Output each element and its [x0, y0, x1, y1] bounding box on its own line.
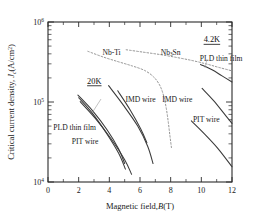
x-axis-title: Magnetic field,B(T) [106, 201, 174, 211]
chart-annotations: 4.2K20KNb-TiNb3SnPLD thin filmIMD wireIM… [53, 35, 242, 146]
x-tick-label: 12 [228, 186, 236, 195]
y-axis-title: Critical current density, Jc(A/cm2) [6, 44, 17, 160]
x-tick-label: 8 [169, 186, 173, 195]
label-pit-wire-4p2k: PIT wire [193, 115, 220, 124]
chart-svg: 024681012 104105106 4.2K20KNb-TiNb3SnPLD… [0, 0, 257, 223]
series-curve [191, 121, 232, 167]
y-tick-label: 104 [33, 177, 44, 187]
y-tick-label: 106 [33, 17, 44, 27]
temp-20k: 20K [87, 77, 101, 86]
temp-4p2k: 4.2K [204, 35, 221, 44]
x-tick-label: 10 [197, 186, 205, 195]
x-axis-tick-labels: 024681012 [46, 186, 236, 195]
figure-container: 024681012 104105106 4.2K20KNb-TiNb3SnPLD… [0, 0, 257, 223]
series-curve [79, 98, 126, 169]
label-nb3sn: Nb3Sn [161, 48, 181, 58]
y-tick-label: 105 [33, 97, 44, 107]
label-pld-thin-film-20k: PLD thin film [53, 123, 96, 132]
data-curves [78, 50, 232, 175]
svg-text:Magnetic field,B(T): Magnetic field,B(T) [106, 201, 174, 211]
label-imd-wire-20k: IMD wire [125, 95, 156, 104]
y-axis-tick-labels: 104105106 [33, 17, 44, 187]
label-pit-wire-20k: PIT wire [72, 137, 99, 146]
label-imd-wire-4p2k: IMD wire [162, 95, 193, 104]
svg-text:Critical current density, Jc(A: Critical current density, Jc(A/cm2) [6, 44, 17, 160]
x-tick-label: 2 [77, 186, 81, 195]
x-tick-label: 4 [107, 186, 111, 195]
label-nbti: Nb-Ti [102, 48, 120, 57]
x-tick-label: 0 [46, 186, 50, 195]
x-tick-label: 6 [138, 186, 142, 195]
label-pld-thin-film-4p2k: PLD thin film [200, 54, 243, 63]
